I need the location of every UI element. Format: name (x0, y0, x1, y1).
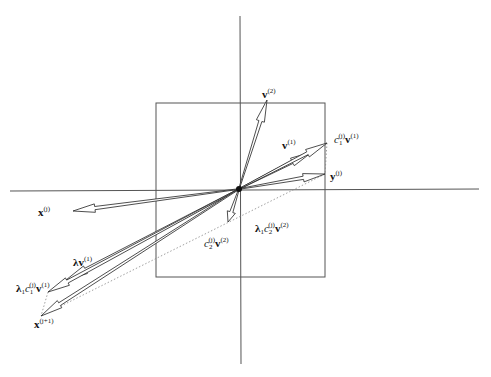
vector-diagram (0, 0, 491, 377)
label-x: x(j) (38, 206, 50, 218)
horizontal-axis (10, 189, 479, 191)
label-lambda1-c1-v1: λ1c1(j)v(1) (16, 282, 50, 296)
label-c2-v2: c2(j)v(2) (204, 237, 229, 251)
origin-point (236, 186, 242, 192)
label-x-next: x(j+1) (34, 318, 54, 330)
label-lambda-v1: λv(1) (73, 256, 92, 268)
label-y: y(j) (330, 170, 342, 182)
label-lambda1-c2-v2: λ1c2(j)v(2) (255, 222, 289, 236)
label-v1: v(1) (282, 139, 296, 151)
label-v2: v(2) (262, 88, 276, 100)
vector-arrow-x_next (41, 189, 239, 316)
label-c1-v1: c1(j)v(1) (334, 133, 359, 147)
